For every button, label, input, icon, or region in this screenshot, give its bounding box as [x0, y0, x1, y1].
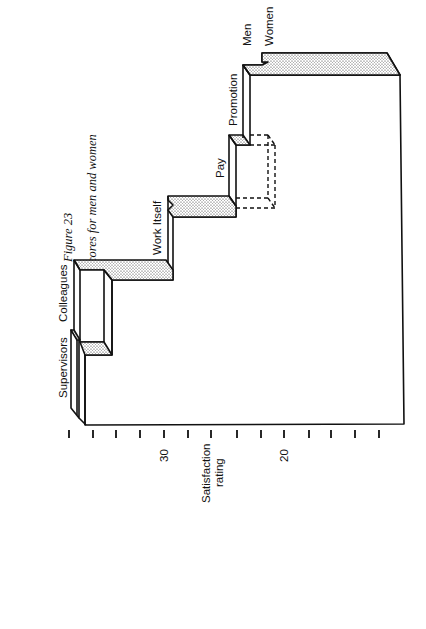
- axis-label-line2: rating: [213, 458, 225, 487]
- legend: Men Women: [241, 7, 275, 46]
- label-colleagues: Colleagues: [57, 264, 69, 322]
- colleagues-men-top-shade: [80, 342, 112, 355]
- label-supervisors: Supervisors: [57, 337, 69, 398]
- satisfaction-staircase-chart: Figure 23 Satisfaction scores for men an…: [0, 0, 426, 629]
- men-women-top-shade: [243, 53, 400, 75]
- label-work-itself: Work Itself: [151, 200, 163, 255]
- legend-men: Men: [241, 24, 253, 46]
- label-promotion: Promotion: [227, 74, 239, 126]
- tick-label-20: 20: [278, 449, 290, 462]
- colleagues-men-box: [80, 270, 104, 342]
- rating-axis: 30 20 Satisfaction rating: [69, 430, 379, 503]
- figure-number: Figure 23: [61, 213, 75, 263]
- supervisors-women-strip: [71, 330, 79, 418]
- tick-label-30: 30: [158, 449, 170, 462]
- work-itself-top-shade: [168, 196, 236, 217]
- label-pay: Pay: [214, 158, 226, 178]
- axis-label-line1: Satisfaction: [200, 444, 212, 503]
- front-face: [85, 75, 404, 425]
- legend-women: Women: [263, 7, 275, 46]
